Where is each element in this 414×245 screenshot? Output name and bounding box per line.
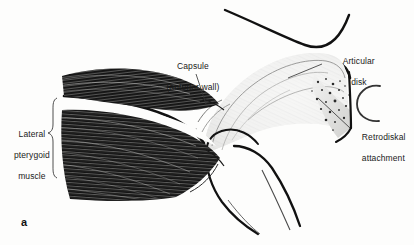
label-articular-disk-line1: Articular — [343, 56, 375, 66]
label-lateral-pterygoid-line2: pterygoid — [14, 150, 50, 160]
label-capsule: Capsule (anterior wall) — [150, 50, 226, 103]
label-articular-disk-line2: disk — [351, 77, 367, 87]
label-retrodiskal-line2: attachment — [362, 153, 405, 163]
label-articular-disk: Articular disk — [326, 45, 382, 98]
label-retrodiskal-attachment: Retrodiskal attachment — [352, 121, 414, 174]
label-capsule-line2: (anterior wall) — [166, 82, 219, 92]
label-lateral-pterygoid-line1: Lateral — [19, 129, 46, 139]
label-retrodiskal-line1: Retrodiskal — [362, 132, 406, 142]
label-capsule-line1: Capsule — [177, 61, 209, 71]
anatomical-figure-tmj: Capsule (anterior wall) Lateral pterygoi… — [0, 0, 414, 245]
figure-panel-letter: a — [21, 216, 27, 228]
label-lateral-pterygoid-muscle: Lateral pterygoid muscle — [2, 118, 52, 192]
label-lateral-pterygoid-line3: muscle — [18, 171, 46, 181]
